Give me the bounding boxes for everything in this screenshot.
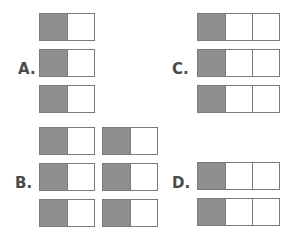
- shaded-cell: [40, 128, 67, 154]
- option-label: C.: [172, 62, 189, 77]
- shaded-cell: [198, 199, 225, 225]
- unshaded-cell: [252, 50, 279, 76]
- unshaded-cell: [252, 14, 279, 40]
- fraction-bar: [39, 49, 95, 77]
- unshaded-cell: [225, 199, 252, 225]
- unshaded-cell: [130, 128, 157, 154]
- fraction-bar: [39, 127, 95, 155]
- shaded-cell: [198, 50, 225, 76]
- shaded-cell: [40, 86, 67, 112]
- unshaded-cell: [67, 164, 94, 190]
- fraction-bar: [197, 13, 280, 41]
- shaded-cell: [40, 50, 67, 76]
- unshaded-cell: [252, 199, 279, 225]
- shaded-cell: [40, 164, 67, 190]
- unshaded-cell: [225, 50, 252, 76]
- fraction-bar: [39, 163, 95, 191]
- fraction-bar: [197, 49, 280, 77]
- unshaded-cell: [130, 164, 157, 190]
- fraction-bar: [102, 163, 158, 191]
- option-label: A.: [18, 62, 36, 77]
- option-label: D.: [172, 176, 190, 191]
- fraction-bar: [39, 85, 95, 113]
- fraction-bar: [102, 199, 158, 227]
- shaded-cell: [103, 164, 130, 190]
- fraction-bar: [197, 198, 280, 226]
- unshaded-cell: [67, 86, 94, 112]
- unshaded-cell: [252, 163, 279, 189]
- unshaded-cell: [67, 200, 94, 226]
- unshaded-cell: [67, 128, 94, 154]
- unshaded-cell: [67, 50, 94, 76]
- option-label: B.: [15, 176, 32, 191]
- fraction-bar: [39, 199, 95, 227]
- unshaded-cell: [130, 200, 157, 226]
- unshaded-cell: [225, 14, 252, 40]
- fraction-bar: [197, 162, 280, 190]
- shaded-cell: [103, 128, 130, 154]
- unshaded-cell: [252, 86, 279, 112]
- fraction-bar: [197, 85, 280, 113]
- shaded-cell: [198, 163, 225, 189]
- fraction-bar: [102, 127, 158, 155]
- shaded-cell: [40, 14, 67, 40]
- shaded-cell: [103, 200, 130, 226]
- unshaded-cell: [67, 14, 94, 40]
- unshaded-cell: [225, 163, 252, 189]
- shaded-cell: [198, 86, 225, 112]
- fraction-bar: [39, 13, 95, 41]
- shaded-cell: [40, 200, 67, 226]
- shaded-cell: [198, 14, 225, 40]
- unshaded-cell: [225, 86, 252, 112]
